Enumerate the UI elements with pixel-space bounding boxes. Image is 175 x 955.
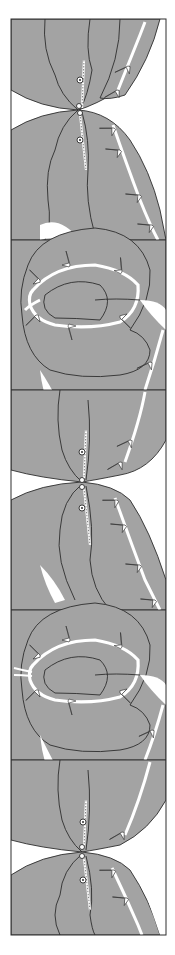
- knot-2: [11, 603, 166, 772]
- ornamental-border: [0, 0, 175, 955]
- knot-1: [11, 222, 166, 410]
- illustration-canvas: [0, 0, 175, 955]
